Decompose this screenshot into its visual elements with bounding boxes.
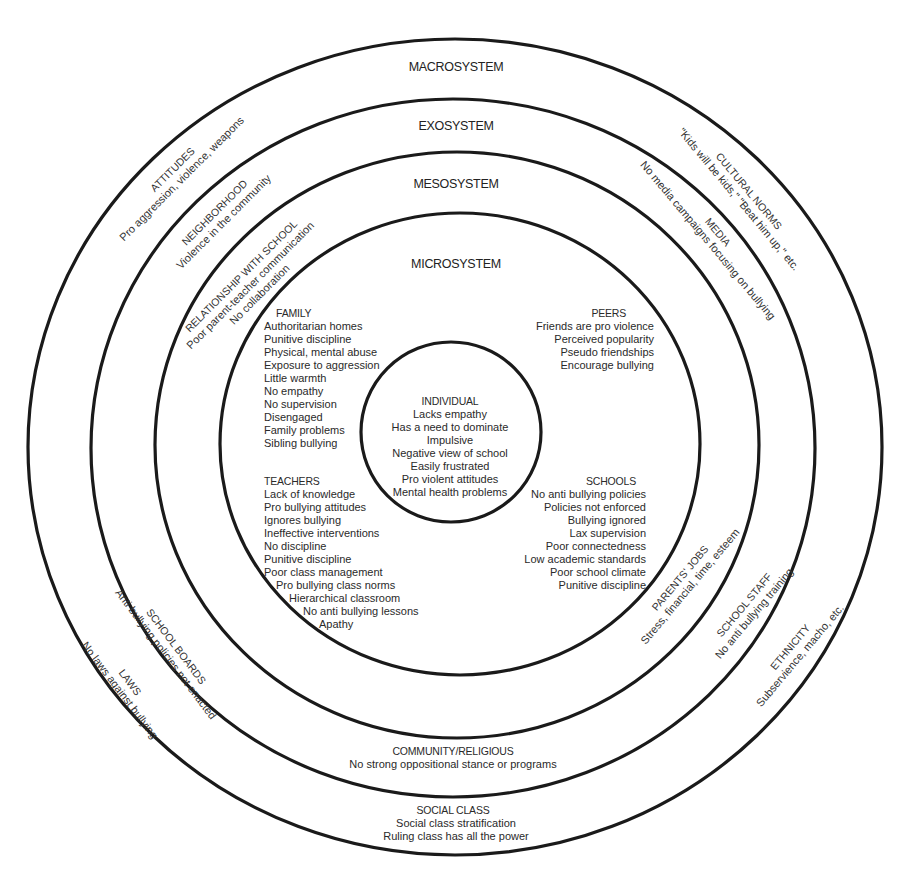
teachers-item: No discipline xyxy=(264,540,326,552)
schools-item: Bullying ignored xyxy=(568,514,646,526)
family-item: Disengaged xyxy=(264,411,323,423)
family-item: Exposure to aggression xyxy=(264,359,380,371)
teachers-item: No anti bullying lessons xyxy=(303,605,419,617)
social-class-item: Social class stratification xyxy=(396,817,516,829)
individual-item: Lacks empathy xyxy=(413,408,487,420)
family-item: Sibling bullying xyxy=(264,437,337,449)
peers-item: Pseudo friendships xyxy=(560,346,654,358)
family-title: FAMILY xyxy=(276,307,312,319)
family-item: Little warmth xyxy=(264,372,326,384)
teachers-item: Lack of knowledge xyxy=(264,488,355,500)
teachers-item: Punitive discipline xyxy=(264,553,351,565)
individual-item: Has a need to dominate xyxy=(392,421,509,433)
schools-item: Poor school climate xyxy=(550,566,646,578)
schools-item: Lax supervision xyxy=(570,527,646,539)
teachers-item: Hierarchical classroom xyxy=(289,592,400,604)
individual-item: Pro violent attitudes xyxy=(402,473,499,485)
peers-item: Friends are pro violence xyxy=(536,320,654,332)
family-item: Punitive discipline xyxy=(264,333,351,345)
individual-item: Easily frustrated xyxy=(411,460,490,472)
social-class-item: Ruling class has all the power xyxy=(383,830,529,842)
family-item: No empathy xyxy=(264,385,324,397)
social-class-label: SOCIAL CLASS Social class stratification… xyxy=(383,804,529,842)
schools-item: Policies not enforced xyxy=(544,501,646,513)
peers-item: Encourage bullying xyxy=(560,359,654,371)
individual-item: Mental health problems xyxy=(393,486,508,498)
teachers-item: Poor class management xyxy=(264,566,383,578)
individual-title: INDIVIDUAL xyxy=(422,395,479,407)
schools-item: Low academic standards xyxy=(524,553,646,565)
teachers-item: Pro bullying class norms xyxy=(276,579,396,591)
family-item: Family problems xyxy=(264,424,345,436)
peers-title: PEERS xyxy=(591,307,626,319)
microsystem-title: MICROSYSTEM xyxy=(411,257,501,271)
teachers-item: Apathy xyxy=(319,618,354,630)
community-religious-label: COMMUNITY/RELIGIOUS No strong opposition… xyxy=(349,745,557,770)
peers-section: PEERS Friends are pro violence Perceived… xyxy=(536,307,655,371)
teachers-title: TEACHERS xyxy=(264,475,320,487)
schools-item: No anti bullying policies xyxy=(531,488,646,500)
laws-item: No laws against bullying xyxy=(80,639,161,740)
teachers-item: Ineffective interventions xyxy=(264,527,380,539)
peers-item: Perceived popularity xyxy=(554,333,654,345)
teachers-item: Pro bullying attitudes xyxy=(264,501,367,513)
macrosystem-title: MACROSYSTEM xyxy=(409,60,504,74)
individual-item: Negative view of school xyxy=(392,447,508,459)
social-class-title: SOCIAL CLASS xyxy=(416,804,489,816)
teachers-section: TEACHERS Lack of knowledge Pro bullying … xyxy=(264,475,419,630)
ethnicity-item: Subservience, macho, etc. xyxy=(754,602,847,709)
schools-title: SCHOOLS xyxy=(586,475,636,487)
cultural-norms-item: "Kids will be kids," "Beat him up," etc. xyxy=(676,126,802,273)
family-item: Physical, mental abuse xyxy=(264,346,377,358)
schools-section: SCHOOLS No anti bullying policies Polici… xyxy=(524,475,646,591)
schools-item: Poor connectedness xyxy=(546,540,647,552)
school-staff-label: SCHOOL STAFF No anti bullying training xyxy=(703,557,796,661)
individual-section: INDIVIDUAL Lacks empathy Has a need to d… xyxy=(392,395,509,498)
family-item: Authoritarian homes xyxy=(264,320,363,332)
exosystem-title: EXOSYSTEM xyxy=(418,119,493,133)
media-item: No media campaigns focusing on bullying xyxy=(638,159,778,322)
community-religious-title: COMMUNITY/RELIGIOUS xyxy=(392,745,513,757)
teachers-item: Ignores bullying xyxy=(264,514,341,526)
family-item: No supervision xyxy=(264,398,337,410)
ecological-systems-diagram: MACROSYSTEM EXOSYSTEM MESOSYSTEM MICROSY… xyxy=(0,0,909,884)
schools-item: Punitive discipline xyxy=(559,579,646,591)
mesosystem-title: MESOSYSTEM xyxy=(413,177,498,191)
community-religious-item: No strong oppositional stance or program… xyxy=(349,758,557,770)
individual-item: Impulsive xyxy=(427,434,473,446)
